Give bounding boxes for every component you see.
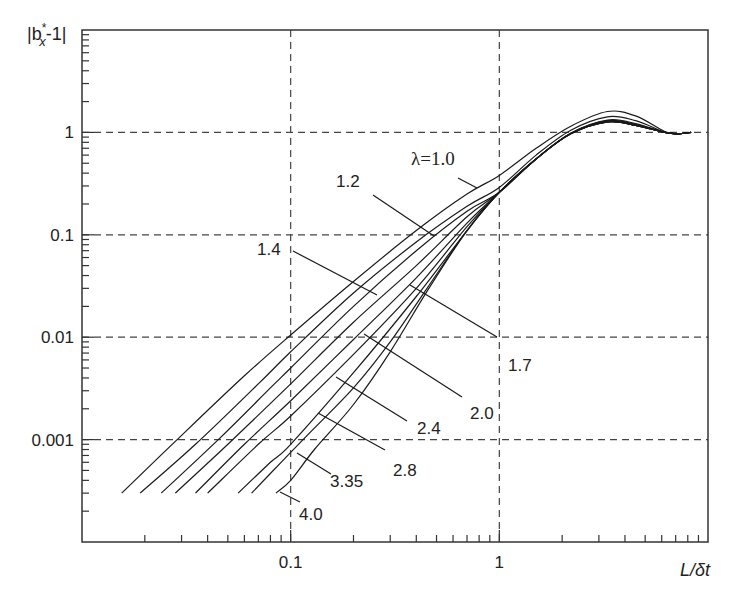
curve-label: 2.8	[393, 461, 417, 480]
curve-2.0	[196, 121, 692, 493]
curve-2.4	[208, 121, 691, 493]
curve-label: 1.4	[257, 240, 281, 259]
curve-label: 1.2	[336, 172, 360, 191]
x-tick-label: 1	[495, 553, 504, 572]
y-axis-title: |b*x-1|	[27, 21, 67, 49]
y-tick-label: 0.001	[31, 431, 74, 450]
annotation-leader	[336, 377, 407, 421]
y-tick-label: 0.01	[41, 328, 74, 347]
curve-3.35	[252, 121, 691, 493]
log-log-chart: 0.1110.10.010.001 λ=1.01.21.41.72.02.42.…	[0, 0, 734, 590]
annotation-leader	[318, 413, 385, 450]
x-axis-title: L/δt	[680, 560, 711, 580]
y-tick-label: 0.1	[50, 226, 74, 245]
curve-label: 1.7	[508, 356, 532, 375]
curve-label: 2.0	[470, 404, 494, 423]
curve-1.0	[122, 111, 691, 493]
annotation-leader	[458, 178, 477, 188]
annotation-leader	[280, 492, 300, 502]
annotation-leader	[373, 195, 434, 236]
data-curves	[122, 111, 691, 493]
x-tick-label: 0.1	[279, 553, 303, 572]
curve-label: 2.4	[417, 419, 441, 438]
tick-labels: 0.1110.10.010.001	[31, 123, 504, 572]
annotation-leader	[410, 285, 497, 337]
annotation-leader	[297, 453, 331, 474]
curve-label: λ=1.0	[411, 148, 455, 169]
curve-label: 4.0	[299, 505, 323, 524]
y-tick-label: 1	[65, 123, 74, 142]
curve-label: 3.35	[330, 472, 363, 491]
annotation-leader	[364, 334, 462, 397]
